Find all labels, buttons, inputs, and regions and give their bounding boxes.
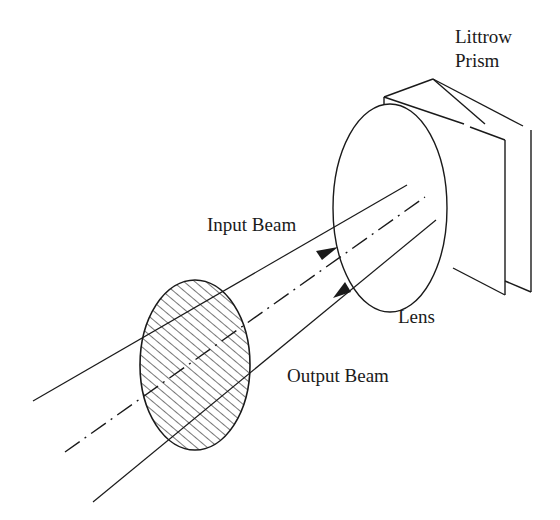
littrow-diagram [0,0,560,520]
input-beam-label: Input Beam [207,214,296,236]
input-arrow-icon [316,247,338,260]
output-beam-label: Output Beam [287,365,389,387]
output-arrow-icon [333,282,351,298]
prism-label-line1: Littrow [455,26,512,48]
lens [333,104,447,312]
lens-label: Lens [398,306,435,328]
prism-label-line2: Prism [455,50,499,72]
hatched-aperture [140,280,250,450]
